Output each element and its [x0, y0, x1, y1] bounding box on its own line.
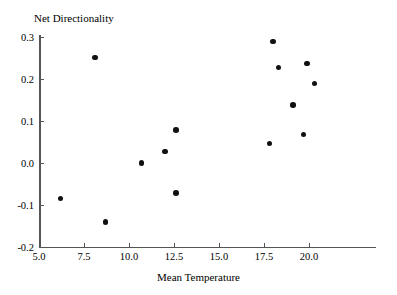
- x-tick-mark: [219, 243, 220, 247]
- data-point: [290, 102, 296, 108]
- x-tick-mark: [84, 243, 85, 247]
- x-axis-title: Mean Temperature: [0, 271, 397, 283]
- y-tick-mark: [39, 205, 44, 206]
- data-point: [173, 190, 179, 196]
- y-tick-label: -0.1: [0, 200, 34, 211]
- y-tick-mark: [39, 121, 44, 122]
- x-tick-mark: [129, 243, 130, 247]
- x-tick-mark: [264, 243, 265, 247]
- y-tick-mark: [39, 79, 44, 80]
- x-tick-label: 7.5: [64, 251, 104, 262]
- y-tick-label: 0.3: [0, 32, 34, 43]
- y-tick-label: 0.1: [0, 116, 34, 127]
- data-point: [173, 127, 179, 133]
- x-axis-line: [39, 247, 376, 249]
- data-point: [312, 81, 318, 87]
- x-tick-label: 5.0: [19, 251, 59, 262]
- x-tick-label: 17.5: [244, 251, 284, 262]
- data-point: [301, 132, 307, 138]
- x-tick-mark: [39, 243, 40, 247]
- x-tick-label: 12.5: [154, 251, 194, 262]
- x-tick-label: 10.0: [109, 251, 149, 262]
- y-axis-title: Net Directionality: [34, 12, 114, 24]
- y-tick-label: 0.0: [0, 158, 34, 169]
- y-axis-line: [39, 35, 41, 248]
- plot-area: 0.30.20.10.0-0.1-0.2 5.07.510.012.515.01…: [0, 0, 397, 295]
- data-point: [276, 65, 282, 71]
- y-tick-mark: [39, 247, 44, 248]
- x-tick-label: 15.0: [199, 251, 239, 262]
- y-tick-mark: [39, 163, 44, 164]
- data-point: [58, 196, 64, 202]
- data-point: [304, 61, 310, 67]
- y-tick-label: 0.2: [0, 74, 34, 85]
- data-point: [139, 160, 145, 166]
- scatter-chart-figure: 0.30.20.10.0-0.1-0.2 5.07.510.012.515.01…: [0, 0, 397, 295]
- data-point: [92, 55, 98, 61]
- data-point: [162, 149, 168, 155]
- y-tick-mark: [39, 37, 44, 38]
- data-point: [270, 39, 276, 45]
- x-tick-label: 20.0: [289, 251, 329, 262]
- x-tick-mark: [174, 243, 175, 247]
- data-point: [267, 141, 273, 147]
- data-point: [103, 219, 109, 225]
- x-tick-mark: [309, 243, 310, 247]
